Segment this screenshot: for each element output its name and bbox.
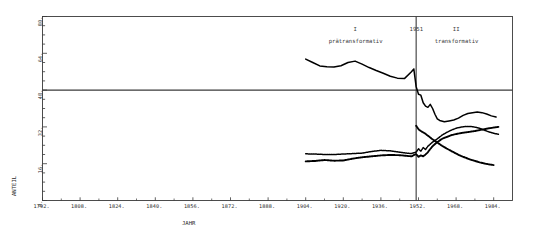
y-tick-label: 32. <box>38 126 43 138</box>
x-tick-label: 1984. <box>485 204 501 209</box>
x-tick-label: 1888. <box>259 204 275 209</box>
y-tick-label: 48. <box>38 90 43 102</box>
y-tick-label: 64. <box>38 53 43 65</box>
x-tick-label: 1824. <box>109 204 125 209</box>
chart-figure: 1792.1808.1824.1840.1856.1872.1888.1904.… <box>0 0 537 234</box>
period-I-numeral: I <box>353 27 356 33</box>
period-II-numeral: II <box>453 27 460 33</box>
x-tick-label: 1872. <box>222 204 238 209</box>
x-tick-label: 1808. <box>71 204 87 209</box>
x-tick-label: 1936. <box>372 204 388 209</box>
x-axis-title: JAHR <box>182 221 195 227</box>
divider-year: 1951 <box>410 27 423 33</box>
x-tick-label: 1904. <box>297 204 313 209</box>
period-I-name: prätransformativ <box>329 39 383 45</box>
axis-ticks <box>43 17 494 201</box>
series-middle <box>306 126 499 154</box>
y-tick-label: 16. <box>38 163 43 175</box>
y-tick-label: 80. <box>38 16 43 28</box>
plot-canvas <box>0 0 537 234</box>
x-tick-label: 1968. <box>447 204 463 209</box>
x-tick-label: 1856. <box>184 204 200 209</box>
period-II-name: transformativ <box>435 39 479 45</box>
y-tick-label: 0. <box>38 200 43 212</box>
y-axis-title: ANTEIL <box>12 176 18 196</box>
series-bottom <box>306 127 499 161</box>
data-series <box>306 59 499 165</box>
x-tick-label: 1840. <box>146 204 162 209</box>
x-tick-label: 1952. <box>410 204 426 209</box>
x-tick-label: 1920. <box>334 204 350 209</box>
